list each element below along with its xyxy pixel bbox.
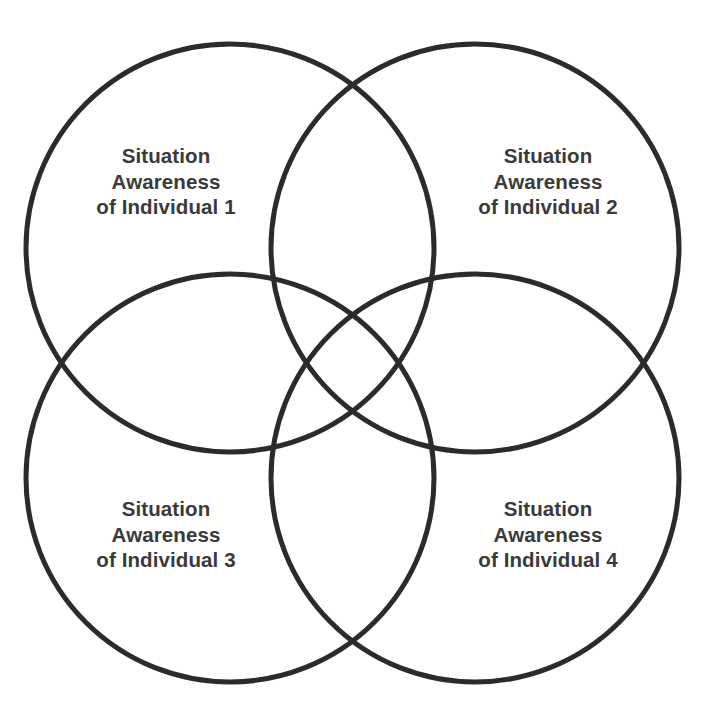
label-line-2: Awareness: [96, 168, 235, 194]
label-situation-awareness-individual-1: Situation Awareness of Individual 1: [96, 143, 235, 220]
circle-situation-awareness-individual-4: [271, 274, 679, 682]
label-line-1: Situation: [96, 143, 235, 169]
circle-situation-awareness-individual-3: [26, 274, 434, 682]
label-line-3: of Individual 4: [478, 547, 617, 573]
label-line-1: Situation: [96, 496, 235, 522]
label-line-1: Situation: [478, 143, 617, 169]
label-line-3: of Individual 1: [96, 194, 235, 220]
label-situation-awareness-individual-4: Situation Awareness of Individual 4: [478, 496, 617, 573]
label-line-1: Situation: [478, 496, 617, 522]
label-situation-awareness-individual-2: Situation Awareness of Individual 2: [478, 143, 617, 220]
label-line-3: of Individual 2: [478, 194, 617, 220]
circle-situation-awareness-individual-2: [271, 44, 679, 452]
label-line-2: Awareness: [96, 521, 235, 547]
label-line-2: Awareness: [478, 168, 617, 194]
label-line-2: Awareness: [478, 521, 617, 547]
label-line-3: of Individual 3: [96, 547, 235, 573]
label-situation-awareness-individual-3: Situation Awareness of Individual 3: [96, 496, 235, 573]
venn-circles-group: [0, 0, 712, 724]
venn-diagram: Situation Awareness of Individual 1 Situ…: [0, 0, 712, 724]
circle-situation-awareness-individual-1: [26, 44, 434, 452]
